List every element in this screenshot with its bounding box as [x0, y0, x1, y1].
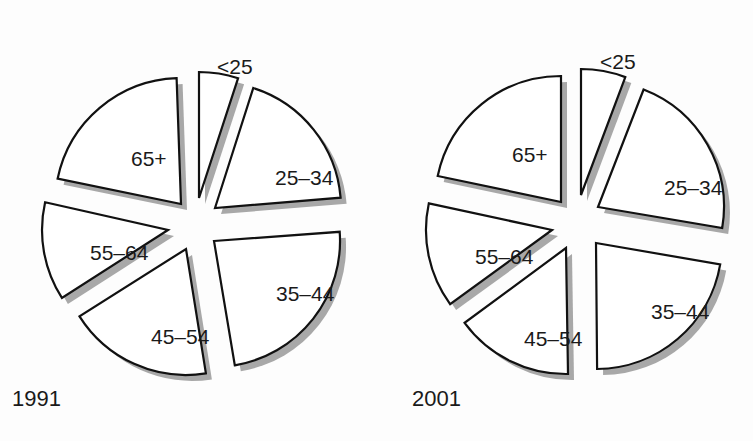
wedge-label: 55–64: [90, 241, 149, 264]
year-label-2001: 2001: [412, 386, 461, 412]
wedge-label: 45–54: [524, 327, 583, 350]
wedge-label: <25: [217, 55, 253, 78]
wedge-label: 55–64: [475, 245, 534, 268]
wedge-label: 25–34: [275, 166, 334, 189]
pie-charts-canvas: <2525–3435–4445–5455–6465+ <2525–3435–44…: [0, 0, 753, 441]
pie-chart-2001: <2525–3435–4445–5455–6465+: [426, 50, 730, 380]
wedge-label: 65+: [131, 147, 167, 170]
wedge-label: 25–34: [664, 176, 723, 199]
wedge-label: 35–44: [651, 300, 710, 323]
wedge-label: 45–54: [151, 325, 210, 348]
year-label-1991: 1991: [12, 386, 61, 412]
pie-chart-1991: <2525–3435–4445–5455–6465+: [42, 55, 347, 381]
wedge-label: 35–44: [276, 282, 335, 305]
wedge-label: <25: [600, 50, 636, 73]
wedge-label: 65+: [512, 143, 548, 166]
